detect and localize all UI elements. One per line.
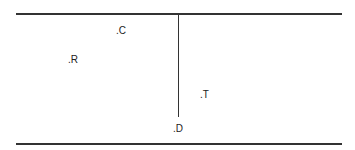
bottom-line bbox=[16, 143, 342, 145]
label-c: .C bbox=[116, 26, 126, 36]
label-t: .T bbox=[200, 90, 209, 100]
label-r: .R bbox=[68, 55, 78, 65]
label-d: .D bbox=[173, 124, 183, 134]
vertical-divider-line bbox=[178, 14, 179, 117]
top-line bbox=[16, 13, 342, 15]
